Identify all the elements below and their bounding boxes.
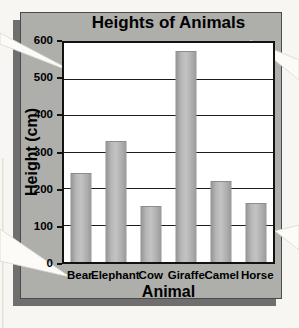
y-tick-label-300: 300 — [34, 146, 53, 158]
y-tick-label-0: 0 — [47, 257, 53, 269]
y-axis-ticks: 0100200300400500600 — [18, 41, 62, 264]
y-tick-mark-600 — [57, 40, 62, 42]
bar-camel — [210, 181, 231, 262]
x-tick-label-cow: Cow — [139, 269, 163, 281]
bar-cow — [141, 206, 162, 262]
y-tick-mark-0 — [57, 263, 62, 265]
x-tick-label-horse: Horse — [241, 269, 274, 281]
bar-bear — [71, 173, 92, 262]
y-tick-label-100: 100 — [34, 220, 53, 232]
x-tick-label-giraffe: Giraffe — [168, 269, 205, 281]
bar-giraffe — [175, 51, 196, 262]
callout-box-edge — [2, 158, 4, 328]
y-tick-label-500: 500 — [34, 71, 53, 83]
gridline-100 — [64, 225, 273, 226]
y-tick-mark-200 — [57, 189, 62, 191]
y-tick-mark-500 — [57, 77, 62, 79]
x-tick-label-camel: Camel — [204, 269, 239, 281]
y-tick-mark-100 — [57, 226, 62, 228]
chart-title: Heights of Animals — [62, 13, 275, 33]
y-tick-label-200: 200 — [34, 183, 53, 195]
plot-area — [62, 41, 275, 264]
x-axis-title: Animal — [62, 283, 275, 301]
gridline-500 — [64, 79, 273, 80]
x-axis-ticks: BearElephantCowGiraffeCamelHorse — [62, 269, 275, 283]
x-tick-label-elephant: Elephant — [91, 269, 140, 281]
bar-elephant — [106, 141, 127, 262]
y-tick-label-600: 600 — [34, 34, 53, 46]
y-tick-mark-300 — [57, 152, 62, 154]
gridline-200 — [64, 188, 273, 189]
plot-inner — [64, 43, 273, 262]
chart-figure: Heights of Animals Height (cm) 010020030… — [0, 0, 299, 328]
gridline-400 — [64, 115, 273, 116]
y-tick-mark-400 — [57, 114, 62, 116]
gridline-300 — [64, 152, 273, 153]
bar-horse — [245, 203, 266, 262]
x-tick-label-bear: Bear — [67, 269, 93, 281]
y-tick-label-400: 400 — [34, 108, 53, 120]
